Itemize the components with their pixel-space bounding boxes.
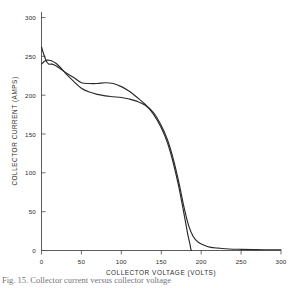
curve-upper <box>42 47 192 250</box>
x-axis-title: COLLECTOR VOLTAGE (VOLTS) <box>106 269 216 277</box>
x-tick-label-50: 50 <box>78 258 86 265</box>
y-axis-tick-labels: 300 250 200 150 100 50 0 <box>25 14 36 254</box>
x-tick-label-300: 300 <box>276 258 287 265</box>
chart-canvas: 300 250 200 150 100 50 0 0 50 100 150 20… <box>0 0 289 288</box>
figure-caption: Fig. 15. Collector current versus collec… <box>2 277 171 285</box>
y-tick-label-150: 150 <box>25 131 36 138</box>
y-tick-label-50: 50 <box>29 208 37 215</box>
curve-lower <box>42 60 282 250</box>
data-series-group <box>42 47 282 250</box>
y-tick-label-0: 0 <box>32 247 36 254</box>
y-tick-label-250: 250 <box>25 53 36 60</box>
x-tick-label-0: 0 <box>40 258 44 265</box>
x-tick-label-150: 150 <box>156 258 167 265</box>
x-axis-ticks <box>42 251 282 255</box>
x-tick-label-100: 100 <box>116 258 127 265</box>
x-axis-tick-labels: 0 50 100 150 200 250 300 <box>40 258 287 265</box>
y-tick-label-300: 300 <box>25 14 36 21</box>
figure-caption-strip: Fig. 15. Collector current versus collec… <box>0 277 289 288</box>
y-tick-label-100: 100 <box>25 169 36 176</box>
x-tick-label-250: 250 <box>236 258 247 265</box>
figure-container: 300 250 200 150 100 50 0 0 50 100 150 20… <box>0 0 289 288</box>
y-axis-title: COLLECTOR CURRENT (AMPS) <box>11 76 19 185</box>
y-tick-label-200: 200 <box>25 92 36 99</box>
x-tick-label-200: 200 <box>196 258 207 265</box>
